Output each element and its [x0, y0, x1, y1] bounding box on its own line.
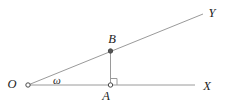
point-O-marker: [26, 83, 30, 87]
geometry-diagram: OωBAXY: [0, 0, 226, 107]
point-A-marker: [108, 83, 112, 87]
label-angle-omega: ω: [53, 74, 61, 86]
point-B-marker: [108, 49, 112, 53]
geometry-figure: OωBAXY: [0, 0, 226, 107]
label-point-B: B: [108, 32, 116, 46]
label-origin-O: O: [7, 77, 16, 91]
label-ray-Y: Y: [209, 6, 218, 20]
label-point-A: A: [101, 89, 110, 103]
label-ray-X: X: [202, 79, 212, 93]
